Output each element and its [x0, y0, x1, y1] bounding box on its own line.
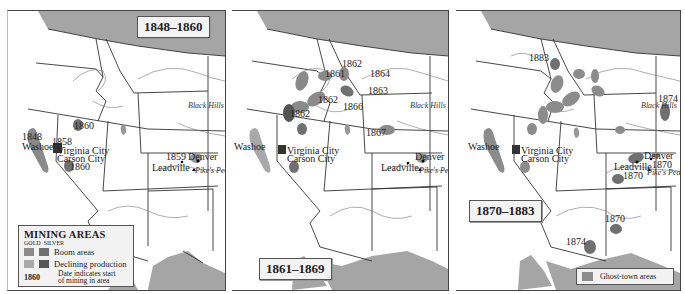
leadville-label: Leadville — [381, 163, 419, 173]
denver-label: Denver — [188, 152, 217, 162]
legend-row-date: 1860 Date indicates start of mining in a… — [24, 270, 128, 284]
mining-areas-legend: MINING AREAS GOLD SILVER Boom areas Decl… — [18, 225, 134, 287]
period-title: 1870–1883 — [469, 200, 542, 222]
silver-boom-swatch — [39, 248, 49, 256]
date-1861: 1861 — [325, 69, 345, 79]
date-1874-arizona: 1874 — [566, 237, 586, 247]
ghost-town-legend-label: Ghost-town areas — [600, 272, 656, 281]
period-title: 1861–1869 — [259, 258, 332, 280]
date-1866: 1866 — [343, 102, 363, 112]
carson-city-label: Carson City — [287, 154, 335, 164]
washoe-label: Washoe — [468, 142, 499, 152]
map-panel-1848-1860: 1848–1860 1848 Washoe 1860 1858 Virginia… — [7, 10, 226, 291]
legend-declining-label: Declining production — [54, 259, 126, 269]
date-1862-idaho: 1862 — [318, 95, 338, 105]
silver-declining-swatch — [39, 260, 49, 268]
date-1867: 1867 — [366, 128, 386, 138]
gold-declining-swatch — [24, 260, 34, 268]
gold-boom-swatch — [24, 248, 34, 256]
legend-date-example: 1860 — [24, 273, 58, 282]
legend-row-boom: Boom areas — [24, 246, 128, 258]
date-1862-montana: 1862 — [342, 59, 362, 69]
date-1864: 1864 — [370, 69, 390, 79]
legend-date-desc: Date indicates start of mining in area — [58, 270, 115, 285]
denver-date: 1859 — [166, 152, 186, 162]
legend-title: MINING AREAS — [24, 229, 128, 240]
ghost-town-swatch — [582, 272, 593, 281]
nevada-1860-south-date: 1860 — [70, 162, 90, 172]
nevada-1860-north-date: 1860 — [74, 121, 94, 131]
black-hills-label: Black Hills — [188, 102, 210, 110]
date-1863: 1863 — [368, 86, 388, 96]
pikes-peak-label: Pike's Peak — [195, 167, 217, 175]
leadville-label: Leadville — [152, 163, 190, 173]
black-hills-label: Black Hills — [641, 102, 663, 110]
leadville-date: 1870 — [623, 171, 643, 181]
date-1870-arizona: 1870 — [605, 214, 625, 224]
map-panel-1861-1869: 1861–1869 1862 1861 1864 1863 1862 1866 … — [232, 10, 449, 291]
legend-col-gold: GOLD — [24, 240, 41, 246]
legend-boom-label: Boom areas — [54, 247, 94, 257]
black-hills-label: Black Hills — [410, 102, 432, 110]
carson-city-label: Carson City — [521, 154, 569, 164]
date-1883: 1883 — [529, 53, 549, 63]
pikes-peak-label: Pike's Peak — [419, 167, 441, 175]
ghost-town-legend: Ghost-town areas — [576, 268, 674, 285]
pikes-peak-label: Pike's Peak — [647, 169, 669, 177]
legend-col-silver: SILVER — [44, 240, 64, 246]
washoe-label: Washoe — [234, 142, 265, 152]
denver-label: Denver — [415, 152, 444, 162]
legend-date-desc-line-2: of mining in area — [58, 276, 109, 285]
washoe-label: Washoe — [22, 142, 53, 152]
map-panel-1870-1883: 1870–1883 1883 1874 Black Hills Washoe V… — [456, 10, 681, 291]
period-title: 1848–1860 — [137, 16, 210, 38]
date-1862-oregon: 1862 — [290, 109, 310, 119]
